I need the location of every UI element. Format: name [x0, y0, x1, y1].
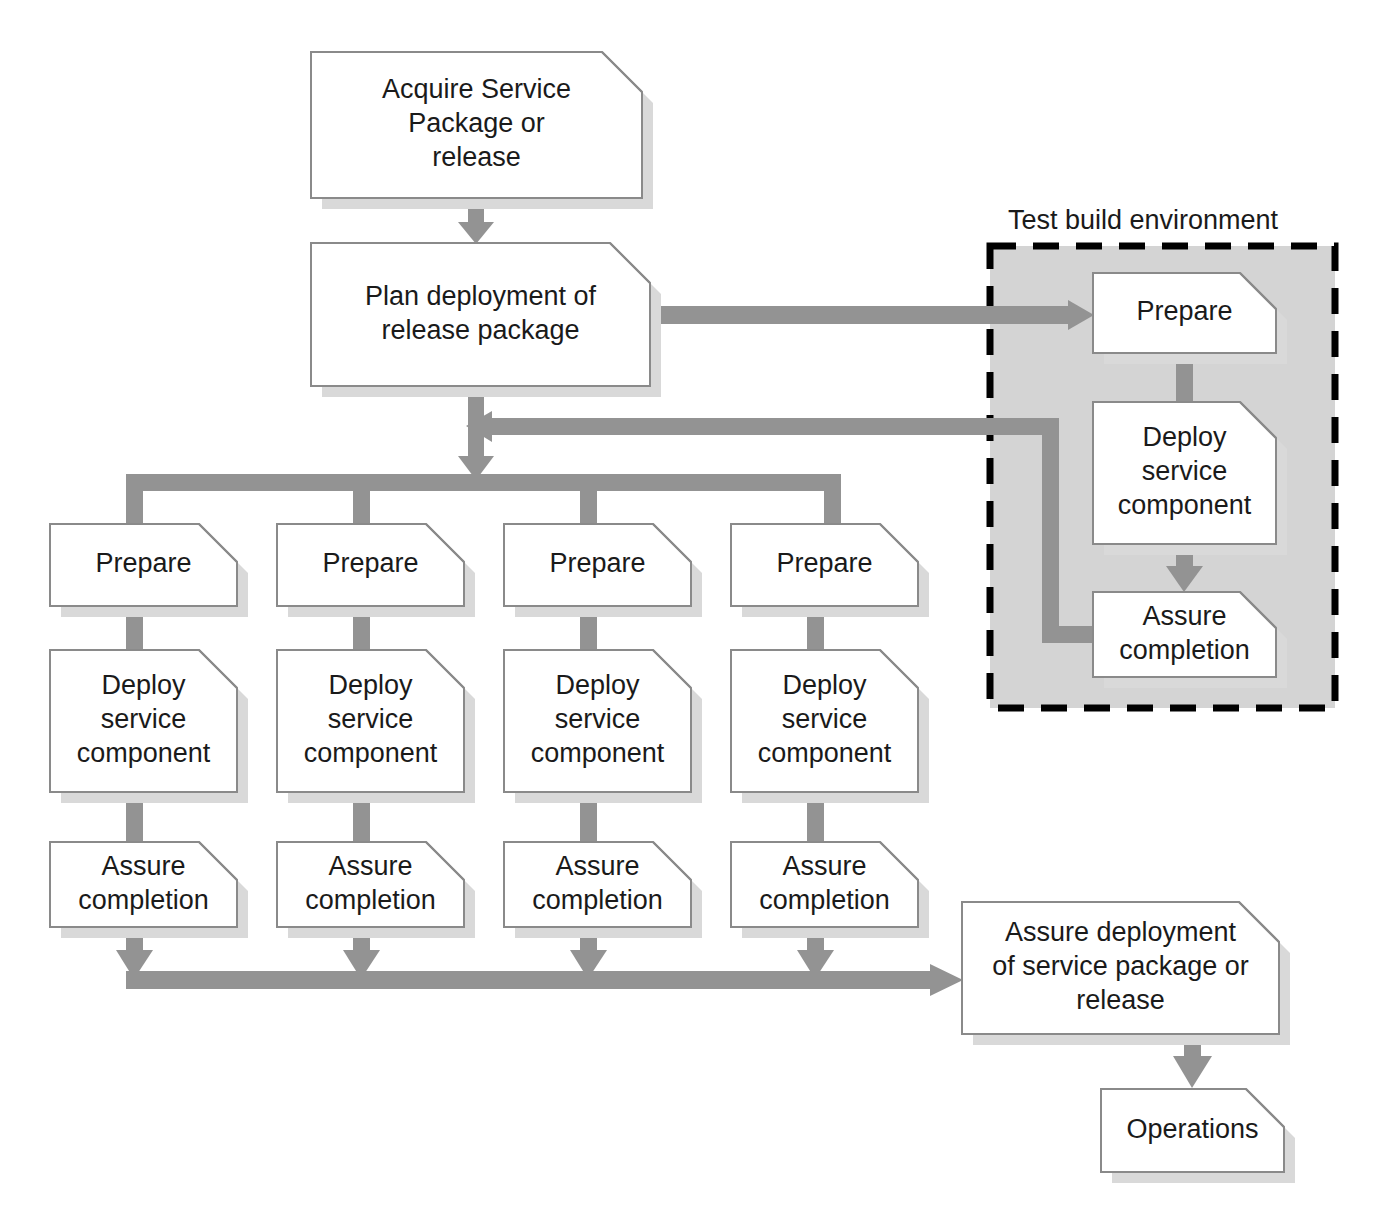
connector-bus-drop-4	[824, 474, 841, 524]
node-label: release package	[381, 315, 579, 345]
node-label: Prepare	[95, 548, 191, 578]
node-label: Deploy	[101, 670, 186, 700]
node-label: component	[1118, 490, 1252, 520]
node-prepare-3: Prepare	[504, 524, 702, 617]
node-label: completion	[78, 885, 209, 915]
node-label: Deploy	[328, 670, 413, 700]
node-label: release	[432, 142, 521, 172]
node-prepare-1: Prepare	[50, 524, 248, 617]
node-label: of service package or	[992, 951, 1249, 981]
node-label: component	[531, 738, 665, 768]
node-plan-deployment: Plan deployment ofrelease package	[311, 243, 661, 397]
connector-bus-drop-1	[126, 474, 143, 524]
node-label: Assure deployment	[1005, 917, 1237, 947]
node-prepare-4: Prepare	[731, 524, 929, 617]
node-label: Prepare	[322, 548, 418, 578]
node-label: Deploy	[1142, 422, 1227, 452]
connector-bus-drop-2	[353, 474, 370, 524]
node-label: Assure	[328, 851, 412, 881]
node-assure-completion-1: Assurecompletion	[50, 842, 248, 938]
node-label: Package or	[408, 108, 545, 138]
node-assure-completion-4: Assurecompletion	[731, 842, 929, 938]
node-label: component	[77, 738, 211, 768]
node-label: release	[1076, 985, 1165, 1015]
node-label: Prepare	[549, 548, 645, 578]
node-deploy-service-component-1: Deployservicecomponent	[50, 650, 248, 803]
node-label: Assure	[555, 851, 639, 881]
node-label: Assure	[1142, 601, 1226, 631]
node-deploy-service-component-2: Deployservicecomponent	[277, 650, 475, 803]
node-acquire-service-package: Acquire ServicePackage orrelease	[311, 52, 653, 209]
node-label: Assure	[101, 851, 185, 881]
node-label: Deploy	[555, 670, 640, 700]
node-test-deploy-service-component: Deployservicecomponent	[1093, 402, 1287, 555]
connector-bus-drop-3	[580, 474, 597, 524]
node-label: component	[304, 738, 438, 768]
connector-distribution-bus	[126, 474, 841, 491]
node-label: completion	[305, 885, 436, 915]
node-label: component	[758, 738, 892, 768]
node-label: Prepare	[1136, 296, 1232, 326]
flowchart-diagram: Test build environment Acquire ServicePa…	[0, 0, 1384, 1222]
diagram-canvas: Test build environment Acquire ServicePa…	[0, 0, 1384, 1222]
node-label: service	[328, 704, 414, 734]
node-label: Operations	[1126, 1114, 1258, 1144]
node-label: service	[555, 704, 641, 734]
node-assure-deployment: Assure deploymentof service package orre…	[962, 902, 1290, 1045]
node-label: completion	[759, 885, 890, 915]
node-assure-completion-3: Assurecompletion	[504, 842, 702, 938]
node-label: service	[782, 704, 868, 734]
node-label: service	[1142, 456, 1228, 486]
connector-collector-bus-to-assure-deployment	[126, 964, 963, 996]
node-deploy-service-component-4: Deployservicecomponent	[731, 650, 929, 803]
node-prepare-2: Prepare	[277, 524, 475, 617]
node-deploy-service-component-3: Deployservicecomponent	[504, 650, 702, 803]
node-label: completion	[1119, 635, 1250, 665]
group-label-test-build-environment: Test build environment	[1008, 205, 1279, 235]
node-label: Deploy	[782, 670, 867, 700]
node-label: Acquire Service	[382, 74, 571, 104]
node-label: completion	[532, 885, 663, 915]
node-assure-completion-2: Assurecompletion	[277, 842, 475, 938]
node-operations: Operations	[1101, 1089, 1295, 1183]
node-label: Prepare	[776, 548, 872, 578]
node-label: Assure	[782, 851, 866, 881]
node-label: service	[101, 704, 187, 734]
node-label: Plan deployment of	[365, 281, 597, 311]
